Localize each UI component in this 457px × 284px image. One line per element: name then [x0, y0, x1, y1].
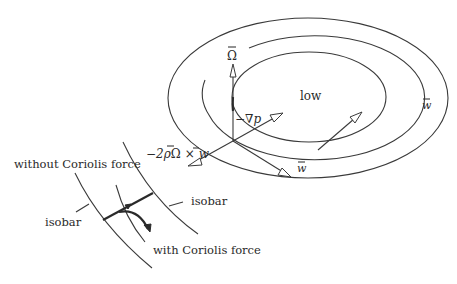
isobar-leader-right	[169, 202, 183, 206]
straight-path-line	[116, 185, 145, 242]
omega-label: Ω	[227, 49, 237, 63]
grad-p-label: −∇p	[235, 112, 261, 126]
with-arrowhead-icon	[144, 224, 151, 232]
with-coriolis-label: with Coriolis force	[153, 243, 261, 257]
wind-bottom-label: w	[297, 162, 307, 175]
wind-vector-right	[318, 112, 362, 150]
isobar-leader-left	[76, 204, 89, 212]
omega-arrowhead-icon	[230, 64, 236, 77]
wind-right-label: w	[422, 99, 432, 112]
wind-bottom-arrowhead-icon	[278, 168, 291, 177]
wind-vector-bottom	[233, 141, 291, 177]
without-coriolis-label: without Coriolis force	[14, 157, 141, 171]
isobar-label-right: isobar	[191, 194, 228, 208]
isobar-label-left: isobar	[45, 215, 82, 229]
low-label: low	[300, 89, 322, 103]
omega-vector	[230, 64, 236, 141]
coriolis-label: −2ρΩ×w	[146, 147, 210, 161]
isobar-line-left	[75, 173, 152, 268]
grad-p-arrowhead-icon	[270, 113, 283, 122]
coriolis-diagram: low Ω −∇p w w −2ρΩ×w	[0, 0, 457, 284]
